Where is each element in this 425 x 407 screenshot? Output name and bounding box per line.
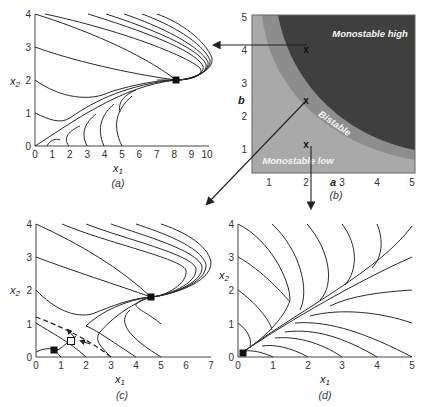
svg-text:2: 2 [303,177,309,188]
svg-text:1: 1 [58,360,64,371]
svg-text:7: 7 [154,149,160,160]
marker-bistable: x [303,95,309,106]
svg-text:2: 2 [26,285,32,296]
svg-text:3: 3 [108,360,114,371]
svg-text:1: 1 [228,319,234,330]
svg-text:9: 9 [189,149,195,160]
svg-text:0: 0 [26,352,32,363]
panel-c-xticks: 0 1 2 3 4 5 6 7 [33,360,214,371]
panel-a-xlabel: x1 [112,162,123,176]
panel-a-yticks: 0 1 2 3 4 [25,9,31,152]
svg-text:5: 5 [119,149,125,160]
figure-canvas: 0 1 2 3 4 5 6 7 8 9 10 0 1 2 3 4 x1 x2 (… [0,0,425,407]
label-monostable-high: Monostable high [332,28,408,39]
svg-text:8: 8 [171,149,177,160]
svg-text:5: 5 [409,177,415,188]
panel-d: 0 1 2 3 4 5 0 1 2 3 4 x1 x2 (d) [218,219,415,401]
svg-text:6: 6 [137,149,143,160]
panel-b-caption: (b) [330,189,343,201]
panel-c-caption: (c) [116,389,128,401]
panel-c-xlabel: x1 [114,373,125,387]
svg-text:3: 3 [339,360,345,371]
svg-text:3: 3 [241,78,247,89]
svg-text:1: 1 [241,144,247,155]
svg-text:7: 7 [208,360,214,371]
marker-low: x [303,139,309,150]
svg-text:1: 1 [50,149,56,160]
panel-d-yticks: 0 1 2 3 4 [228,219,234,363]
panel-a-xticks: 0 1 2 3 4 5 6 7 8 9 10 [32,149,213,160]
svg-text:0: 0 [228,352,234,363]
svg-text:3: 3 [228,252,234,263]
svg-text:2: 2 [67,149,73,160]
svg-text:6: 6 [183,360,189,371]
svg-text:1: 1 [270,360,276,371]
panel-a-trajectories [35,14,212,146]
svg-text:1: 1 [25,108,31,119]
panel-c-stable-point-high [148,294,155,301]
svg-text:1: 1 [266,177,272,188]
panel-d-trajectories [238,224,412,357]
panel-b-xticks: 1 2 3 4 5 [266,177,415,188]
panel-a-stable-point [173,77,180,84]
svg-text:4: 4 [228,219,234,230]
panel-b-yticks: 1 2 3 4 5 [241,12,247,155]
svg-text:4: 4 [102,149,108,160]
svg-text:3: 3 [26,252,32,263]
svg-text:0: 0 [25,141,31,152]
svg-text:4: 4 [374,177,380,188]
svg-text:2: 2 [241,111,247,122]
svg-text:5: 5 [158,360,164,371]
panel-b-xlabel: a [330,176,336,188]
svg-text:3: 3 [25,42,31,53]
svg-text:0: 0 [32,149,38,160]
panel-d-stable-point [240,350,247,357]
svg-text:2: 2 [305,360,311,371]
panel-c-stable-point-low [51,347,58,354]
svg-text:4: 4 [374,360,380,371]
svg-text:0: 0 [235,360,241,371]
svg-text:3: 3 [339,177,345,188]
svg-text:2: 2 [25,75,31,86]
svg-text:2: 2 [228,285,234,296]
svg-text:5: 5 [241,12,247,23]
svg-text:10: 10 [201,149,213,160]
marker-high: x [303,44,309,55]
svg-text:3: 3 [84,149,90,160]
panel-d-caption: (d) [319,389,332,401]
panel-c-yticks: 0 1 2 3 4 [26,219,32,363]
panel-b-ylabel: b [238,94,245,106]
panel-c-ylabel: x2 [9,284,21,298]
panel-c: 0 1 2 3 4 5 6 7 0 1 2 3 4 x1 x2 (c) [9,219,214,401]
svg-text:1: 1 [26,319,32,330]
panel-a-ylabel: x2 [9,75,21,89]
svg-text:4: 4 [26,219,32,230]
svg-text:4: 4 [133,360,139,371]
svg-text:4: 4 [25,9,31,20]
panel-d-xlabel: x1 [319,373,330,387]
panel-c-trajectories [36,224,211,357]
svg-text:4: 4 [241,45,247,56]
svg-text:5: 5 [409,360,415,371]
panel-a-caption: (a) [112,177,125,189]
label-monostable-low: Monostable low [262,155,334,166]
svg-text:2: 2 [83,360,89,371]
panel-d-xticks: 0 1 2 3 4 5 [235,360,415,371]
panel-b: Monostable high Bistable Monostable low … [238,12,415,201]
panel-a: 0 1 2 3 4 5 6 7 8 9 10 0 1 2 3 4 x1 x2 (… [9,9,213,189]
panel-d-ylabel: x2 [218,269,230,283]
svg-text:0: 0 [33,360,39,371]
panel-c-saddle-point [68,338,75,345]
